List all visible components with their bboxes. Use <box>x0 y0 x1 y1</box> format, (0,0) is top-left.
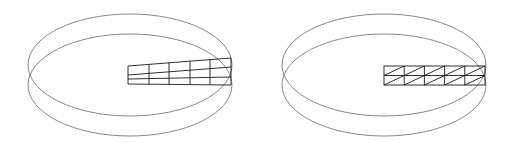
mesh-row-line <box>128 77 231 79</box>
mesh-diagonal <box>404 76 424 86</box>
mesh-diagonal <box>465 76 485 86</box>
mesh-diagonal <box>404 66 424 76</box>
mesh-diagonal <box>384 66 404 76</box>
mesh-diagonal <box>424 76 444 86</box>
diagram-canvas <box>0 0 509 146</box>
mesh-row-line <box>128 58 231 66</box>
mesh <box>128 58 231 85</box>
upper-ring-ellipse <box>28 14 232 116</box>
mesh-diagonal <box>384 76 404 86</box>
mesh-diagonal <box>424 66 444 76</box>
mesh <box>384 66 485 85</box>
mesh-diagonal <box>445 76 465 86</box>
left-figure-deformed-mesh <box>28 14 232 136</box>
right-figure-triangulated-mesh <box>282 14 486 136</box>
mesh-row-line <box>128 67 231 75</box>
mesh-row-line <box>128 84 231 85</box>
upper-ring-ellipse <box>282 14 486 116</box>
mesh-diagonal <box>445 66 465 76</box>
